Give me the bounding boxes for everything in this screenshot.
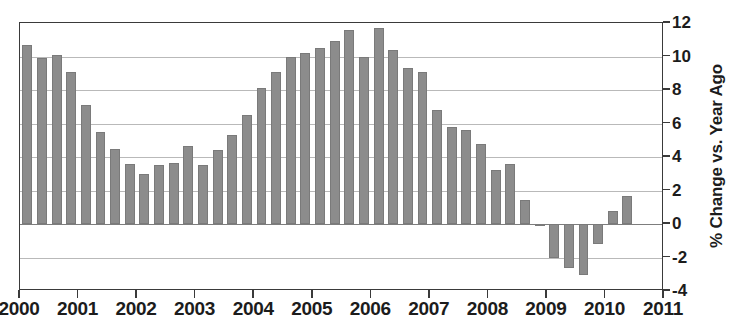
bar — [125, 164, 135, 224]
y-tick-label: 2 — [672, 181, 681, 198]
x-tick-label: 2004 — [233, 299, 274, 318]
bar — [608, 211, 618, 224]
x-tick-label: 2009 — [525, 299, 566, 318]
x-tick-mark — [311, 290, 313, 298]
bar — [257, 88, 267, 224]
x-tick-mark — [662, 290, 664, 298]
x-tick-label: 2008 — [467, 299, 508, 318]
y-tick-mark — [663, 222, 670, 224]
bar — [169, 163, 179, 224]
y-axis-title: % Change vs. Year Ago — [700, 22, 734, 290]
bar — [37, 58, 47, 224]
bar — [622, 196, 632, 224]
bar-chart: 121086420-2-4 % Change vs. Year Ago 2000… — [0, 0, 739, 331]
x-tick-label: 2000 — [0, 299, 40, 318]
bar — [432, 110, 442, 224]
y-tick-label: 8 — [672, 81, 681, 98]
x-tick-mark — [252, 290, 254, 298]
y-axis: 121086420-2-4 — [663, 0, 703, 331]
y-tick-mark — [663, 256, 670, 258]
bar — [286, 57, 296, 225]
x-tick-mark — [77, 290, 79, 298]
bar — [52, 55, 62, 224]
bar — [549, 224, 559, 258]
bar — [315, 48, 325, 224]
bar — [593, 224, 603, 244]
bar — [81, 105, 91, 224]
y-tick-mark — [663, 55, 670, 57]
y-tick-mark — [663, 189, 670, 191]
bar — [154, 165, 164, 224]
bar — [213, 150, 223, 224]
x-tick-mark — [545, 290, 547, 298]
x-tick-label: 2011 — [643, 299, 683, 318]
bar-series — [20, 23, 662, 289]
y-tick-mark — [663, 122, 670, 124]
y-tick-mark — [663, 155, 670, 157]
x-tick-mark — [18, 290, 20, 298]
x-tick-label: 2002 — [116, 299, 157, 318]
bar — [66, 72, 76, 224]
y-tick-mark — [663, 88, 670, 90]
y-tick-label: 10 — [672, 47, 691, 64]
x-tick-label: 2010 — [584, 299, 625, 318]
x-tick-mark — [428, 290, 430, 298]
bar — [403, 68, 413, 224]
x-tick-label: 2007 — [408, 299, 449, 318]
x-tick-label: 2003 — [174, 299, 215, 318]
bar — [579, 224, 589, 275]
bar — [271, 72, 281, 224]
bar — [359, 57, 369, 225]
bar — [198, 165, 208, 224]
bar — [564, 224, 574, 268]
bar — [476, 144, 486, 224]
bar — [242, 115, 252, 224]
bar — [96, 132, 106, 224]
plot-area — [19, 22, 663, 290]
bar — [22, 45, 32, 224]
x-tick-label: 2006 — [350, 299, 391, 318]
bar — [388, 50, 398, 224]
bar — [344, 30, 354, 224]
x-tick-mark — [135, 290, 137, 298]
x-tick-label: 2005 — [291, 299, 332, 318]
x-tick-mark — [370, 290, 372, 298]
bar — [139, 174, 149, 224]
bar — [300, 53, 310, 224]
y-tick-label: 12 — [672, 14, 691, 31]
x-tick-label: 2001 — [57, 299, 98, 318]
bar — [374, 28, 384, 224]
bar — [330, 41, 340, 224]
bar — [505, 164, 515, 224]
y-tick-label: 6 — [672, 114, 681, 131]
x-tick-mark — [487, 290, 489, 298]
x-tick-mark — [194, 290, 196, 298]
bar — [418, 72, 428, 224]
x-tick-mark — [604, 290, 606, 298]
x-axis: 2000200120022003200420052006200720082009… — [0, 290, 739, 331]
bar — [110, 149, 120, 224]
y-tick-label: 0 — [672, 215, 681, 232]
bar — [535, 224, 545, 226]
bar — [227, 135, 237, 224]
bar — [491, 170, 501, 224]
bar — [461, 130, 471, 224]
bar — [520, 200, 530, 224]
y-tick-label: 4 — [672, 148, 681, 165]
bar — [447, 127, 457, 224]
bar — [183, 146, 193, 224]
y-tick-mark — [663, 21, 670, 23]
y-tick-label: -2 — [672, 248, 687, 265]
